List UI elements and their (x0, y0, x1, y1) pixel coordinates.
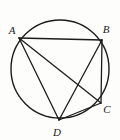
circumscribed-circle (11, 20, 109, 118)
vertex-label-b: B (103, 23, 110, 35)
segment-bd (59, 40, 102, 120)
figure-canvas: A B C D (0, 0, 120, 140)
segment-ac (19, 38, 101, 103)
segment-ab (19, 38, 102, 40)
segment-ad (19, 38, 59, 120)
vertex-label-d: D (52, 126, 61, 138)
segment-cd (59, 103, 101, 120)
vertex-label-c: C (103, 103, 111, 115)
vertex-label-a: A (8, 24, 16, 36)
geometry-figure: A B C D (0, 0, 120, 140)
